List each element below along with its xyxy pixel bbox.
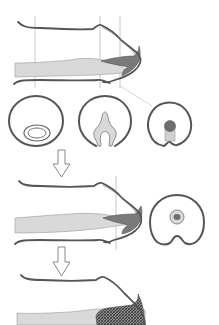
- arrow-down-1: [53, 150, 70, 177]
- cross-section-oval-lumen: [9, 96, 63, 146]
- core-dark-center: [174, 214, 181, 220]
- dark-core: [165, 121, 176, 132]
- skin-outline-bottom-2: [15, 240, 110, 244]
- skin-outline-bottom: [14, 80, 110, 84]
- glans-hatched: [96, 294, 144, 325]
- developmental-diagram: [0, 0, 219, 325]
- stage-1-long-section: [14, 16, 152, 106]
- glans-lining: [102, 27, 136, 56]
- cross-section-solid-core: [148, 103, 191, 146]
- glans-lining-2: [103, 185, 137, 214]
- stage-2-long-section: [15, 176, 142, 250]
- stage-3-long-section: [17, 275, 145, 325]
- cross-section-ring-with-core: [150, 195, 204, 245]
- arrow-down-2: [53, 247, 70, 276]
- cross-section-folding-plate: [79, 96, 131, 146]
